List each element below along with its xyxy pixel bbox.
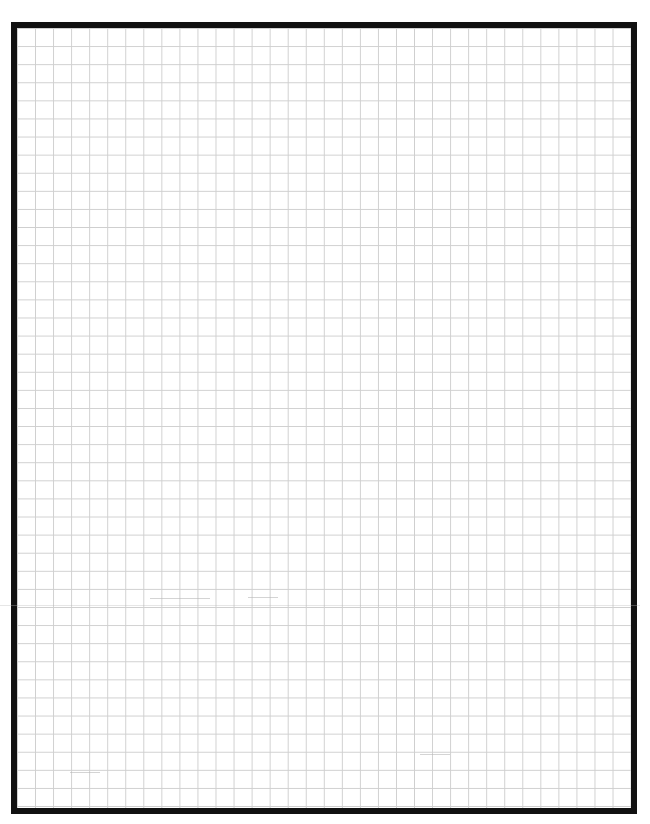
scan-artifact-line: [0, 605, 640, 606]
scan-artifact-line: [150, 598, 210, 599]
scan-artifact-line: [248, 597, 278, 598]
scan-artifact-line: [420, 754, 450, 755]
scan-artifact-line: [70, 772, 100, 773]
graph-paper-grid: [11, 22, 637, 814]
